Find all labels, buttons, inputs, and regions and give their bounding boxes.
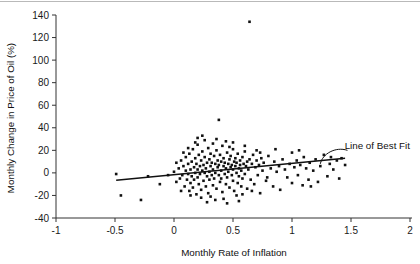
data-point: [310, 185, 313, 188]
data-point: [194, 141, 197, 144]
data-point: [187, 163, 190, 166]
data-point: [241, 156, 244, 159]
data-point: [202, 179, 205, 182]
data-point: [185, 169, 188, 172]
data-point: [206, 201, 209, 204]
data-point: [244, 150, 247, 153]
data-point: [219, 154, 222, 157]
data-point: [227, 163, 230, 166]
data-point: [248, 20, 251, 23]
data-point: [228, 146, 231, 149]
data-point: [228, 158, 231, 161]
data-point: [188, 152, 191, 155]
data-point: [256, 174, 259, 177]
data-point: [203, 156, 206, 159]
data-point: [233, 160, 236, 163]
x-tick-label: 2: [407, 225, 413, 236]
data-point: [266, 176, 269, 179]
data-point: [196, 143, 199, 146]
data-point: [220, 177, 223, 180]
data-point: [180, 159, 183, 162]
data-point: [200, 189, 203, 192]
data-point: [244, 173, 247, 176]
data-point: [214, 163, 217, 166]
data-point: [307, 178, 310, 181]
y-tick-label: -40: [35, 213, 50, 224]
data-point: [265, 179, 268, 182]
data-point: [240, 185, 243, 188]
data-point: [281, 158, 284, 161]
data-point: [223, 173, 226, 176]
data-point: [195, 193, 198, 196]
data-point: [298, 149, 301, 152]
data-point: [293, 166, 296, 169]
data-point: [210, 174, 213, 177]
data-point: [205, 185, 208, 188]
data-point: [203, 139, 206, 142]
y-tick-label: 20: [38, 145, 50, 156]
data-point: [328, 163, 331, 166]
data-point: [216, 159, 219, 162]
data-point: [190, 175, 193, 178]
data-point: [274, 148, 277, 151]
data-point: [297, 174, 300, 177]
data-point: [301, 184, 304, 187]
data-point: [188, 190, 191, 193]
data-point: [249, 178, 252, 181]
data-point: [195, 163, 198, 166]
data-point: [189, 194, 192, 197]
data-point: [246, 160, 249, 163]
data-point: [344, 164, 347, 167]
data-point: [206, 161, 209, 164]
data-point: [225, 140, 228, 143]
data-point: [196, 168, 199, 171]
data-point: [332, 168, 335, 171]
x-tick-label: -1: [52, 225, 61, 236]
data-point: [194, 157, 197, 160]
data-point: [187, 147, 190, 150]
data-point: [207, 192, 210, 195]
x-tick-label: 0: [171, 225, 177, 236]
data-point: [218, 174, 221, 177]
axes: [56, 15, 412, 218]
data-point: [220, 160, 223, 163]
data-point: [159, 183, 162, 186]
data-point: [226, 151, 229, 154]
data-point: [200, 159, 203, 162]
data-point: [213, 177, 216, 180]
data-point: [262, 161, 265, 164]
data-point: [303, 156, 306, 159]
data-point: [212, 184, 215, 187]
data-point: [275, 170, 278, 173]
data-point: [239, 164, 242, 167]
data-point: [208, 158, 211, 161]
data-point: [175, 181, 178, 184]
data-point: [190, 160, 193, 163]
data-point: [238, 200, 241, 203]
x-tick-label: 0.5: [226, 225, 240, 236]
data-point: [196, 176, 199, 179]
data-point: [261, 169, 264, 172]
data-point: [241, 177, 244, 180]
scatter-plot-figure: -40-20020406080100120140 -1-0.500.511.52…: [0, 0, 420, 264]
y-tick-label: 140: [32, 10, 49, 21]
data-point: [209, 152, 212, 155]
data-point: [200, 196, 203, 199]
data-point: [205, 167, 208, 170]
data-point: [192, 186, 195, 189]
data-point: [234, 157, 237, 160]
data-point: [219, 181, 222, 184]
data-point: [179, 177, 182, 180]
data-point: [229, 155, 232, 158]
data-point: [255, 149, 258, 152]
data-point: [177, 167, 180, 170]
data-point: [232, 148, 235, 151]
data-point: [236, 152, 239, 155]
data-point: [120, 194, 123, 197]
data-point: [208, 178, 211, 181]
data-point: [234, 165, 237, 168]
data-point: [209, 195, 212, 198]
data-point: [186, 178, 189, 181]
data-point: [199, 173, 202, 176]
data-point: [228, 186, 231, 189]
